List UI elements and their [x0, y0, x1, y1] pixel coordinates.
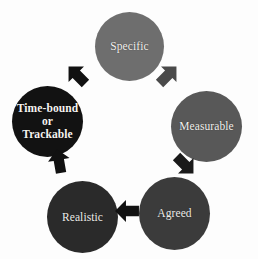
page-title: SMART Goals Cycle: [0, 21, 1, 22]
cycle-node-timebound[interactable]: Time-bound or Trackable: [12, 86, 83, 157]
cycle-node-agreed[interactable]: Agreed: [139, 177, 210, 250]
smart-goals-cycle-diagram: SMART Goals Cycle Specific Measurable Ag…: [0, 0, 258, 259]
cycle-node-timebound-label-line1: Time-bound: [17, 102, 79, 114]
cycle-node-measurable[interactable]: Measurable: [171, 91, 242, 162]
cycle-node-agreed-label: Agreed: [153, 207, 195, 220]
cycle-node-realistic-label: Realistic: [58, 211, 107, 224]
cycle-node-timebound-label: Time-bound or Trackable: [12, 102, 83, 141]
cycle-node-specific-label: Specific: [106, 40, 152, 53]
arrow-up-icon-timebound-to-specific: [59, 57, 96, 94]
cycle-node-measurable-label: Measurable: [175, 120, 238, 133]
cycle-node-timebound-label-line2: or Trackable: [22, 115, 73, 140]
cycle-node-specific[interactable]: Specific: [95, 12, 164, 81]
cycle-node-realistic[interactable]: Realistic: [47, 181, 118, 253]
arrow-left-icon-agreed-to-realistic: [114, 198, 140, 224]
